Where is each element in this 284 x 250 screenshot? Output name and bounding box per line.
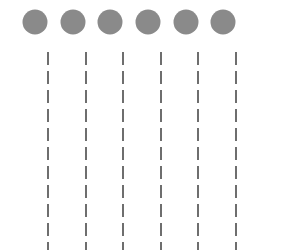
node-circle-1	[23, 10, 48, 35]
node-circle-5	[174, 10, 199, 35]
node-circle-4	[136, 10, 161, 35]
node-circle-2	[61, 10, 86, 35]
node-circle-3	[98, 10, 123, 35]
diagram-canvas	[0, 0, 284, 250]
node-group	[23, 10, 237, 250]
node-circle-6	[211, 10, 236, 35]
